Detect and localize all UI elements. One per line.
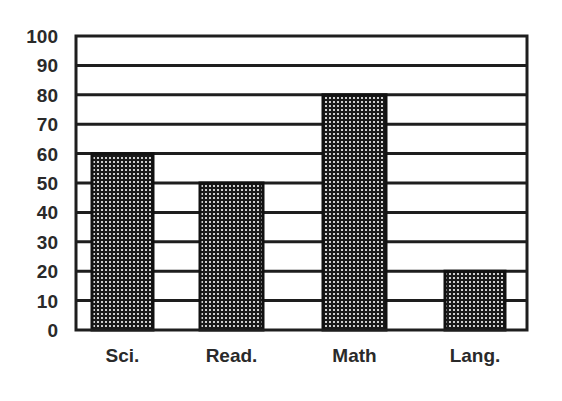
y-tick-label: 50: [37, 173, 58, 194]
y-tick-label: 20: [37, 261, 58, 282]
y-tick-label: 70: [37, 114, 58, 135]
bar-lang: [445, 271, 505, 330]
x-axis-labels: Sci.Read.MathLang.: [106, 345, 501, 366]
y-tick-label: 30: [37, 232, 58, 253]
y-tick-label: 100: [26, 26, 58, 47]
bar-sci: [92, 154, 153, 330]
y-tick-label: 0: [47, 320, 58, 341]
x-tick-label: Math: [332, 345, 376, 366]
y-tick-label: 40: [37, 202, 58, 223]
y-axis-ticks: 0102030405060708090100: [26, 26, 58, 341]
x-tick-label: Lang.: [450, 345, 501, 366]
bar-chart: 0102030405060708090100 Sci.Read.MathLang…: [0, 0, 562, 401]
y-tick-label: 10: [37, 291, 58, 312]
x-tick-label: Read.: [206, 345, 258, 366]
bar-math: [323, 95, 386, 330]
bar-read: [200, 183, 263, 330]
y-tick-label: 80: [37, 85, 58, 106]
y-tick-label: 60: [37, 144, 58, 165]
x-tick-label: Sci.: [106, 345, 140, 366]
y-tick-label: 90: [37, 55, 58, 76]
